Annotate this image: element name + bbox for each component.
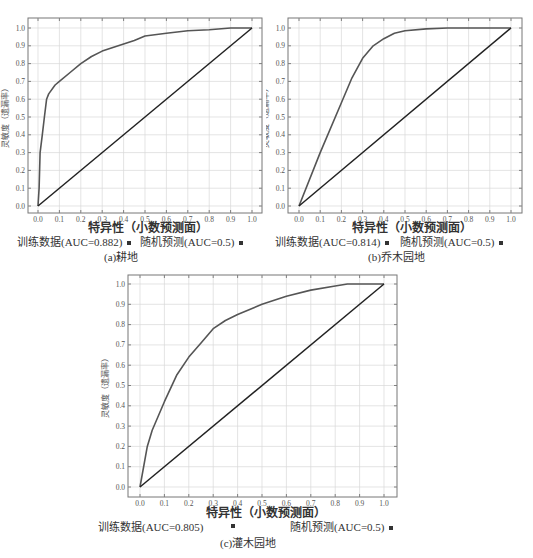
svg-text:0.8: 0.8 xyxy=(331,499,341,507)
svg-text:0.7: 0.7 xyxy=(16,77,26,86)
legend-random-c-label: 随机预测(AUC=0.5) xyxy=(290,521,385,533)
svg-text:0.9: 0.9 xyxy=(116,300,126,309)
legend-train-a: 训练数据(AUC=0.882) xyxy=(17,233,131,249)
svg-text:0.5: 0.5 xyxy=(276,113,286,122)
roc-chart-b: 0.00.10.20.30.40.50.60.70.80.91.00.00.10… xyxy=(266,0,533,225)
svg-text:0.3: 0.3 xyxy=(116,422,126,431)
svg-text:0.4: 0.4 xyxy=(16,130,26,139)
svg-text:0.3: 0.3 xyxy=(276,148,286,157)
svg-text:0.8: 0.8 xyxy=(116,320,126,329)
legend-marker-icon xyxy=(499,241,503,245)
legend-train-b: 训练数据(AUC=0.814) xyxy=(275,233,389,249)
svg-text:0.6: 0.6 xyxy=(276,95,286,104)
svg-text:0.7: 0.7 xyxy=(276,77,286,86)
svg-text:0.7: 0.7 xyxy=(116,340,126,349)
legend-random-a: 随机预测(AUC=0.5) xyxy=(140,233,243,249)
svg-text:0.2: 0.2 xyxy=(337,215,347,224)
panel-c: 0.00.10.20.30.40.50.60.70.80.91.00.00.10… xyxy=(95,262,440,558)
roc-chart-c: 0.00.10.20.30.40.50.60.70.80.91.00.00.10… xyxy=(95,262,440,507)
svg-text:1.0: 1.0 xyxy=(379,499,389,507)
svg-text:0.9: 0.9 xyxy=(276,41,286,50)
svg-text:0.2: 0.2 xyxy=(276,166,286,175)
legend-random-c: 随机预测(AUC=0.5) xyxy=(290,518,393,534)
svg-text:0.2: 0.2 xyxy=(16,166,26,175)
svg-text:0.8: 0.8 xyxy=(16,59,26,68)
svg-text:0.8: 0.8 xyxy=(276,59,286,68)
svg-text:0.1: 0.1 xyxy=(316,215,326,224)
legend-marker-icon xyxy=(239,241,243,245)
svg-text:灵敏度（遗漏率）: 灵敏度（遗漏率） xyxy=(266,84,270,148)
svg-text:1.0: 1.0 xyxy=(116,280,126,289)
svg-text:0.0: 0.0 xyxy=(294,215,304,224)
legend-random-b-label: 随机预测(AUC=0.5) xyxy=(400,236,495,248)
svg-text:0.9: 0.9 xyxy=(226,215,236,224)
svg-text:0.5: 0.5 xyxy=(116,381,126,390)
svg-text:0.6: 0.6 xyxy=(116,361,126,370)
svg-text:1.0: 1.0 xyxy=(16,24,26,33)
legend-train-a-label: 训练数据(AUC=0.882) xyxy=(17,236,123,248)
svg-text:灵敏度（遗漏率）: 灵敏度（遗漏率） xyxy=(100,354,110,418)
svg-text:0.1: 0.1 xyxy=(55,215,65,224)
panel-a: 0.00.10.20.30.40.50.60.70.80.91.00.00.10… xyxy=(0,0,266,262)
svg-text:0.3: 0.3 xyxy=(16,148,26,157)
legend-random-a-label: 随机预测(AUC=0.5) xyxy=(140,236,235,248)
svg-text:0.9: 0.9 xyxy=(485,215,495,224)
panel-b: 0.00.10.20.30.40.50.60.70.80.91.00.00.10… xyxy=(266,0,533,262)
svg-text:0.0: 0.0 xyxy=(116,483,126,492)
svg-text:0.1: 0.1 xyxy=(16,184,26,193)
svg-text:0.5: 0.5 xyxy=(16,113,26,122)
svg-text:0.1: 0.1 xyxy=(160,499,170,507)
svg-text:0.2: 0.2 xyxy=(76,215,86,224)
svg-text:灵敏度（遗漏率）: 灵敏度（遗漏率） xyxy=(0,84,10,148)
caption-c: (c)灌木园地 xyxy=(220,534,276,550)
svg-text:0.6: 0.6 xyxy=(16,95,26,104)
legend-train-c: 训练数据(AUC=0.805) xyxy=(98,518,204,534)
svg-text:1.0: 1.0 xyxy=(506,215,516,224)
svg-text:0.2: 0.2 xyxy=(116,442,126,451)
roc-chart-a: 0.00.10.20.30.40.50.60.70.80.91.00.00.10… xyxy=(0,0,266,225)
legend-marker-icon xyxy=(389,526,393,530)
legend-marker-icon xyxy=(231,524,235,528)
legend-train-b-label: 训练数据(AUC=0.814) xyxy=(275,236,381,248)
svg-text:0.0: 0.0 xyxy=(33,215,43,224)
svg-text:0.9: 0.9 xyxy=(16,41,26,50)
svg-text:1.0: 1.0 xyxy=(247,215,257,224)
svg-text:0.2: 0.2 xyxy=(184,499,194,507)
svg-text:0.0: 0.0 xyxy=(276,202,286,211)
legend-train-c-label: 训练数据(AUC=0.805) xyxy=(98,521,204,533)
svg-text:0.4: 0.4 xyxy=(116,401,126,410)
svg-text:0.1: 0.1 xyxy=(116,462,126,471)
svg-text:0.0: 0.0 xyxy=(16,202,26,211)
legend-marker-icon xyxy=(385,241,389,245)
svg-text:0.9: 0.9 xyxy=(355,499,365,507)
svg-text:0.1: 0.1 xyxy=(276,184,286,193)
legend-random-b: 随机预测(AUC=0.5) xyxy=(400,233,503,249)
svg-text:0.4: 0.4 xyxy=(276,130,286,139)
legend-marker-icon xyxy=(127,241,131,245)
svg-text:1.0: 1.0 xyxy=(276,24,286,33)
svg-text:0.0: 0.0 xyxy=(135,499,145,507)
